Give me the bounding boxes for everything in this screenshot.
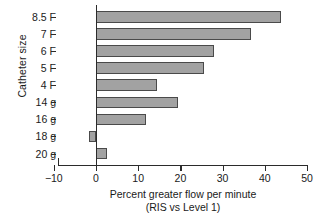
bar: [96, 11, 281, 23]
x-axis-tick-label: 10: [118, 172, 158, 184]
x-axis-tick-label: 0: [76, 172, 116, 184]
x-axis-tick-mark: [265, 165, 266, 171]
bar: [96, 97, 178, 109]
x-axis-title-line2: (RIS vs Level 1): [58, 201, 308, 214]
x-axis-tick-mark: [54, 165, 55, 171]
x-axis-tick-mark: [96, 165, 97, 171]
x-axis-title-line1: Percent greater flow per minute: [58, 188, 308, 201]
x-axis-title: Percent greater flow per minute (RIS vs …: [58, 188, 308, 214]
bar: [96, 45, 214, 57]
x-axis-tick-mark: [138, 165, 139, 171]
x-axis-tick-label: −10: [34, 172, 74, 184]
x-axis-tick-label: 40: [245, 172, 285, 184]
x-axis-ticks: −1001020304050: [0, 165, 318, 187]
bar: [89, 131, 96, 143]
x-axis-tick-mark: [223, 165, 224, 171]
bar: [96, 114, 146, 126]
bar: [96, 28, 251, 40]
bar: [96, 148, 107, 160]
x-axis-tick-mark: [307, 165, 308, 171]
x-axis-tick-label: 20: [160, 172, 200, 184]
bars-layer: [0, 0, 318, 170]
bar: [96, 62, 204, 74]
bar: [96, 79, 157, 91]
bar-chart-figure: Catheter size 8.5 F7 F6 F5 F4 F14 g16 g1…: [0, 0, 318, 221]
x-axis-tick-mark: [180, 165, 181, 171]
x-axis-tick-label: 50: [287, 172, 318, 184]
x-axis-tick-label: 30: [203, 172, 243, 184]
zero-reference-line: [96, 5, 97, 166]
